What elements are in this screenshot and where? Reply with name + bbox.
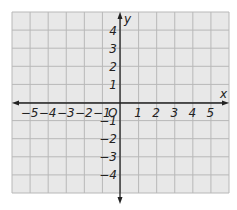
- y-tick-label: −1: [99, 114, 117, 128]
- x-tick-label: −5: [21, 106, 39, 120]
- y-tick-label: 3: [109, 42, 117, 56]
- x-tick-label: 2: [152, 106, 160, 120]
- x-tick-label: −2: [75, 106, 93, 120]
- y-tick-label: 1: [109, 78, 117, 92]
- y-tick-label: 4: [109, 24, 117, 38]
- y-tick-label: −3: [99, 150, 117, 164]
- y-tick-label: 2: [109, 60, 117, 74]
- y-tick-label: −2: [99, 132, 117, 146]
- x-tick-label: 4: [189, 106, 197, 120]
- x-tick-label: 1: [134, 106, 142, 120]
- x-tick-label: −3: [57, 106, 75, 120]
- x-tick-label: 3: [170, 106, 178, 120]
- y-tick-label: −4: [99, 168, 117, 182]
- x-axis-label: x: [219, 87, 228, 101]
- x-tick-label: −4: [39, 106, 57, 120]
- coordinate-plane: x y O −5−4−3−2−112345 4321−1−2−3−4: [0, 0, 237, 210]
- y-axis-down-arrow-icon: [118, 197, 123, 204]
- y-axis-label: y: [123, 12, 132, 26]
- x-tick-label: 5: [207, 106, 215, 120]
